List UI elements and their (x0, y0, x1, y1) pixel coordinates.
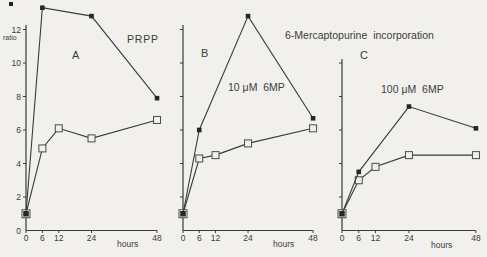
filled-square-marker (40, 5, 45, 10)
filled-square-marker (197, 128, 202, 133)
panel-c-series-label: 100 μM 6MP (381, 84, 444, 95)
panel-c-letter: C (360, 50, 368, 61)
open-square-marker (88, 135, 95, 142)
open-square-marker (55, 125, 62, 132)
y-axis-label: ratio (3, 34, 17, 41)
figure-title: 6-Mercaptopurine incorporation (285, 30, 434, 41)
x-tick-label: 6 (356, 233, 361, 243)
figure: 061224480246810120612244806122448 6-Merc… (0, 0, 487, 257)
panel-a-series-label: PRPP (127, 34, 159, 45)
filled-square-marker (23, 211, 29, 217)
filled-square-marker (311, 116, 316, 121)
x-tick-label: 0 (181, 233, 186, 243)
panel-b-series-label: 10 μM 6MP (228, 82, 285, 93)
x-tick-label: 24 (243, 233, 253, 243)
y-tick-label: 10 (12, 58, 22, 68)
y-tick-label: 4 (16, 159, 21, 169)
open-square-marker (212, 152, 219, 159)
filled-square-marker (474, 126, 479, 131)
filled-square-marker (89, 14, 94, 19)
x-tick-label: 0 (340, 233, 345, 243)
filled-square-marker (246, 14, 251, 19)
panel-a-x-axis-label: hours (117, 240, 138, 249)
x-tick-label: 12 (54, 233, 64, 243)
filled-square-line (342, 107, 476, 214)
x-tick-label: 24 (87, 233, 97, 243)
y-tick-label: 0 (16, 226, 21, 236)
open-square-marker (196, 155, 203, 162)
open-square-marker (310, 125, 317, 132)
y-tick-label: 2 (16, 192, 21, 202)
x-tick-label: 24 (404, 233, 414, 243)
open-square-marker (245, 140, 252, 147)
filled-square-marker (180, 211, 186, 217)
filled-square-line (183, 16, 313, 214)
y-tick-label: 8 (16, 92, 21, 102)
scan-speck (9, 2, 13, 6)
x-tick-label: 6 (197, 233, 202, 243)
filled-square-marker (356, 170, 361, 175)
open-square-line (26, 120, 157, 214)
y-tick-label: 12 (12, 25, 22, 35)
panel-c-x-axis-label: hours (431, 241, 452, 250)
panel-b-letter: B (201, 48, 208, 59)
open-square-line (342, 155, 476, 214)
open-square-marker (472, 152, 479, 159)
x-tick-label: 48 (308, 233, 318, 243)
y-tick-label: 6 (16, 125, 21, 135)
x-tick-label: 12 (371, 233, 381, 243)
x-tick-label: 48 (152, 233, 162, 243)
filled-square-marker (407, 104, 412, 109)
open-square-marker (405, 152, 412, 159)
filled-square-marker (155, 96, 160, 101)
open-square-marker (154, 116, 161, 123)
x-tick-label: 6 (40, 233, 45, 243)
open-square-marker (372, 163, 379, 170)
x-tick-label: 12 (211, 233, 221, 243)
open-square-marker (39, 145, 46, 152)
panel-b-x-axis-label: hours (273, 240, 294, 249)
panel-b-plot: 06122448 (179, 14, 318, 243)
x-tick-label: 48 (471, 233, 481, 243)
filled-square-marker (339, 211, 345, 217)
x-tick-label: 0 (24, 233, 29, 243)
panel-a-letter: A (72, 50, 79, 61)
